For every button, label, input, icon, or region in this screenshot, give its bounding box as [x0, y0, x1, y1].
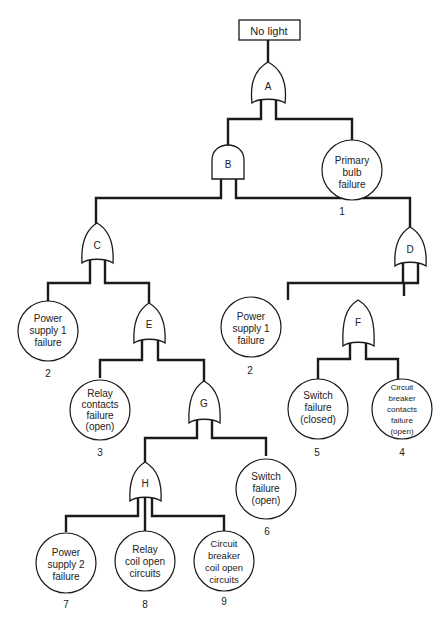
event-number: 8	[142, 599, 148, 610]
gate-e[interactable]: E	[134, 303, 165, 343]
svg-text:breaker: breaker	[208, 550, 240, 561]
event-number: 3	[97, 447, 103, 458]
event-circuit-breaker-contacts-failure-open[interactable]: Circuit breaker contacts failure (open) …	[372, 379, 432, 458]
svg-text:failure: failure	[237, 335, 265, 346]
svg-text:failure: failure	[391, 416, 413, 425]
gate-d-label: D	[406, 244, 413, 255]
svg-text:failure: failure	[52, 571, 80, 582]
event-switch-failure-open[interactable]: Switch failure (open) 6	[236, 459, 296, 537]
svg-text:Primary: Primary	[335, 155, 369, 166]
gate-h[interactable]: H	[130, 462, 161, 501]
svg-text:Power: Power	[52, 547, 81, 558]
svg-text:coil open: coil open	[125, 556, 165, 567]
gate-f-label: F	[355, 317, 361, 328]
event-power-supply-2-failure[interactable]: Power supply 2 failure 7	[36, 533, 96, 610]
event-circuit-breaker-coil-open-circuits[interactable]: Circuit breaker coil open circuits 9	[194, 531, 254, 607]
svg-text:Power: Power	[34, 313, 63, 324]
svg-text:(open): (open)	[252, 495, 281, 506]
svg-text:failure: failure	[34, 337, 62, 348]
gate-e-label: E	[146, 319, 153, 330]
svg-text:contacts: contacts	[81, 399, 118, 410]
gate-f[interactable]: F	[343, 300, 374, 346]
svg-text:supply 1: supply 1	[232, 323, 270, 334]
svg-text:failure: failure	[86, 410, 114, 421]
svg-text:Power: Power	[237, 311, 266, 322]
event-number: 5	[314, 447, 320, 458]
event-number: 6	[264, 526, 270, 537]
gate-c[interactable]: C	[82, 223, 113, 263]
gate-b-and[interactable]: B	[212, 145, 244, 179]
svg-text:bulb: bulb	[343, 167, 362, 178]
event-number: 9	[221, 596, 227, 607]
svg-text:failure: failure	[304, 402, 332, 413]
event-number: 1	[339, 206, 345, 217]
svg-text:Circuit: Circuit	[211, 538, 238, 549]
gate-d[interactable]: D	[395, 227, 426, 266]
svg-text:Relay: Relay	[87, 388, 113, 399]
fault-tree-diagram: No light A B C D E F G H Primary bulb	[0, 0, 446, 624]
event-power-supply-1-failure-d[interactable]: Power supply 1 failure 2	[221, 297, 281, 376]
event-number: 7	[63, 599, 69, 610]
svg-text:Switch: Switch	[303, 390, 332, 401]
gate-g[interactable]: G	[189, 381, 220, 423]
event-primary-bulb-failure[interactable]: Primary bulb failure 1	[322, 140, 382, 217]
event-number: 4	[399, 447, 405, 458]
event-relay-coil-open-circuits[interactable]: Relay coil open circuits 8	[115, 531, 175, 610]
svg-text:Switch: Switch	[251, 471, 280, 482]
event-number: 2	[247, 365, 253, 376]
svg-text:failure: failure	[252, 483, 280, 494]
svg-text:circuits: circuits	[209, 574, 239, 585]
top-event-box[interactable]: No light	[239, 20, 300, 40]
event-power-supply-1-failure-c[interactable]: Power supply 1 failure 2	[18, 301, 78, 379]
event-number: 2	[45, 368, 51, 379]
svg-text:Circuit: Circuit	[391, 383, 414, 392]
gate-a[interactable]: A	[252, 62, 286, 103]
svg-text:Relay: Relay	[132, 544, 158, 555]
svg-text:contacts: contacts	[387, 405, 417, 414]
svg-text:coil open: coil open	[205, 562, 243, 573]
gate-a-label: A	[265, 81, 272, 92]
gate-h-label: H	[141, 478, 148, 489]
svg-text:circuits: circuits	[129, 568, 160, 579]
svg-text:(closed): (closed)	[300, 414, 336, 425]
svg-text:(open): (open)	[390, 427, 413, 436]
event-switch-failure-closed[interactable]: Switch failure (closed) 5	[288, 379, 348, 458]
svg-text:(open): (open)	[86, 421, 115, 432]
svg-text:breaker: breaker	[388, 394, 415, 403]
gate-g-label: G	[200, 398, 208, 409]
svg-text:failure: failure	[338, 179, 366, 190]
event-relay-contacts-failure-open[interactable]: Relay contacts failure (open) 3	[70, 380, 130, 458]
gate-b-label: B	[225, 159, 232, 170]
connectors	[48, 40, 418, 532]
gate-c-label: C	[93, 240, 100, 251]
svg-text:supply 2: supply 2	[47, 559, 85, 570]
top-event-label: No light	[250, 25, 287, 37]
svg-text:supply 1: supply 1	[29, 325, 67, 336]
